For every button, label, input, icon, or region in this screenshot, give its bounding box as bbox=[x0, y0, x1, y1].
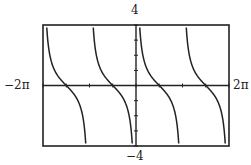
axes bbox=[43, 25, 229, 146]
plot-area bbox=[0, 0, 251, 165]
